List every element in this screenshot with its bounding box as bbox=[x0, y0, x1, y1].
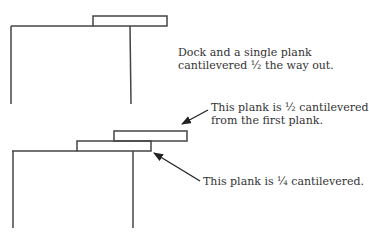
upper-plank bbox=[114, 131, 187, 141]
top-caption-line1: Dock and a single plank bbox=[178, 47, 312, 59]
arrow-lower-plank bbox=[154, 153, 200, 181]
upper-plank-annotation-line2: from the first plank. bbox=[211, 115, 323, 127]
top-caption-line2: cantilevered ½ the way out. bbox=[178, 60, 334, 72]
arrow-upper-plank bbox=[182, 110, 208, 124]
top-plank bbox=[93, 16, 167, 26]
lower-plank bbox=[77, 141, 151, 151]
upper-plank-annotation-line1: This plank is ½ cantilevered bbox=[211, 102, 369, 114]
bottom-dock bbox=[12, 131, 187, 228]
lower-plank-annotation: This plank is ¼ cantilevered. bbox=[203, 176, 364, 188]
top-dock bbox=[11, 16, 167, 104]
